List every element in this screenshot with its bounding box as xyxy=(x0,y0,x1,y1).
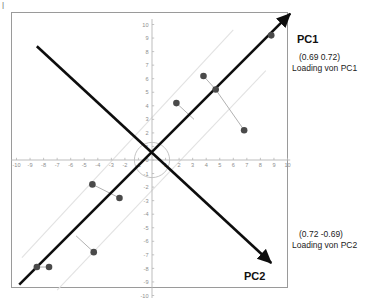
x-tick-label: 6 xyxy=(232,162,235,168)
x-tick-label: 2 xyxy=(178,162,181,168)
x-tick-label: -2 xyxy=(122,162,127,168)
x-tick-label: -3 xyxy=(109,162,114,168)
data-point xyxy=(116,195,123,202)
y-tick-label: -8 xyxy=(144,266,149,272)
y-tick-label: -3 xyxy=(144,198,149,204)
data-point xyxy=(173,100,180,107)
y-tick-label: 2 xyxy=(145,130,148,136)
data-point xyxy=(268,32,275,39)
page-corner-mark: | xyxy=(2,0,4,9)
x-tick-label: -4 xyxy=(95,162,100,168)
x-tick-label: 4 xyxy=(205,162,208,168)
y-tick-label: 4 xyxy=(145,103,148,109)
y-tick-label: 3 xyxy=(145,116,148,122)
connector-2 xyxy=(92,184,119,198)
data-point xyxy=(34,264,41,271)
connector-1 xyxy=(76,236,94,252)
band-line-1 xyxy=(57,71,266,291)
x-tick-label: -5 xyxy=(82,162,87,168)
y-tick-label: -9 xyxy=(144,279,149,285)
y-tick-label: 6 xyxy=(145,76,148,82)
data-point xyxy=(212,86,219,93)
x-tick-label: -10 xyxy=(12,162,20,168)
x-tick-label: 5 xyxy=(218,162,221,168)
pc1-loading-value: (0.69 0.72) xyxy=(299,52,340,63)
screenshot-root: -10-9-8-7-6-5-4-3-2-112345678910-10-9-8-… xyxy=(0,0,375,298)
x-tick-label: -9 xyxy=(28,162,33,168)
pc2-axis-label: PC2 xyxy=(244,270,265,282)
pc1-axis-label: PC1 xyxy=(297,33,318,45)
pc1-loading-caption: Loading von PC1 xyxy=(292,63,357,74)
data-point xyxy=(200,73,207,80)
y-tick-label: 5 xyxy=(145,89,148,95)
data-point xyxy=(89,181,96,188)
y-tick-label: 8 xyxy=(145,49,148,55)
x-tick-label: 3 xyxy=(191,162,194,168)
y-tick-label: -4 xyxy=(144,211,149,217)
band-line-0 xyxy=(22,30,233,258)
y-tick-label: -10 xyxy=(140,293,148,298)
y-tick-label: -5 xyxy=(144,225,149,231)
x-tick-label: -6 xyxy=(68,162,73,168)
y-tick-label: -7 xyxy=(144,252,149,258)
connector-5 xyxy=(216,90,244,131)
data-point xyxy=(46,264,53,271)
x-tick-label: -7 xyxy=(55,162,60,168)
x-tick-label: 10 xyxy=(284,162,290,168)
point-connector-lines xyxy=(37,76,244,267)
x-tick-label: 9 xyxy=(272,162,275,168)
y-tick-label: 10 xyxy=(142,22,148,28)
chart-canvas: -10-9-8-7-6-5-4-3-2-112345678910-10-9-8-… xyxy=(0,0,375,298)
principal-component-vectors xyxy=(19,14,290,285)
data-point xyxy=(241,127,248,134)
data-point xyxy=(90,249,97,256)
x-tick-label: 7 xyxy=(245,162,248,168)
y-tick-label: 9 xyxy=(145,35,148,41)
y-tick-label: 7 xyxy=(145,62,148,68)
x-tick-label: -8 xyxy=(41,162,46,168)
y-tick-label: -2 xyxy=(144,184,149,190)
x-tick-label: 8 xyxy=(259,162,262,168)
pc2-loading-value: (0.72 -0.69) xyxy=(299,229,343,240)
y-tick-label: -6 xyxy=(144,238,149,244)
pc2-loading-caption: Loading von PC2 xyxy=(292,240,357,251)
